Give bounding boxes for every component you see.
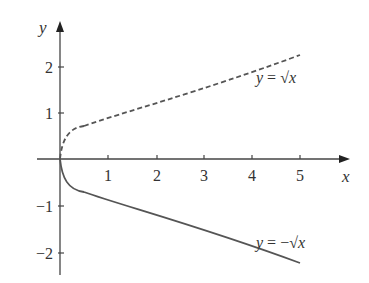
curve-label-neg-sqrt: y = −√x (254, 234, 305, 252)
y-tick-labels: 2 1 −1 −2 (36, 59, 53, 262)
x-tick-label: 2 (153, 167, 161, 184)
y-axis-label: y (37, 18, 47, 37)
x-axis (37, 155, 350, 163)
curve-label-sqrt: y = √x (254, 69, 296, 87)
chart: 1 2 3 4 5 x 2 1 −1 −2 y y = √x y = −√x (0, 0, 369, 283)
x-tick-label: 5 (296, 167, 304, 184)
x-tick-label: 4 (248, 167, 256, 184)
y-tick-label: 2 (45, 59, 53, 76)
x-axis-arrow-icon (339, 155, 350, 163)
x-axis-label: x (341, 167, 350, 186)
y-tick-label: −2 (36, 245, 53, 262)
x-tick-label: 1 (104, 167, 112, 184)
x-tick-labels: 1 2 3 4 5 (104, 167, 304, 184)
x-tick-label: 3 (200, 167, 208, 184)
y-axis-arrow-icon (56, 21, 64, 32)
y-axis (56, 21, 64, 275)
y-tick-label: 1 (45, 105, 53, 122)
y-tick-label: −1 (36, 198, 53, 215)
